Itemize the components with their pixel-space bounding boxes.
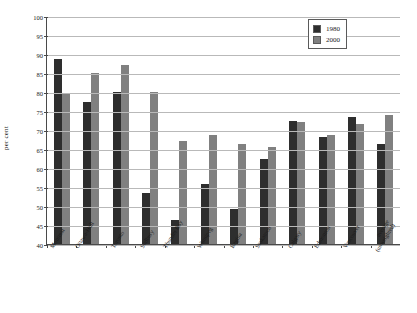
y-tick-mark-55 xyxy=(44,188,48,189)
y-tick-label-90: 90 xyxy=(37,52,44,59)
y-tick-mark-60 xyxy=(44,169,48,170)
gridline-90: 90 xyxy=(47,55,400,56)
y-tick-mark-70 xyxy=(44,131,48,132)
legend-item-2000: 2000 xyxy=(313,34,340,45)
y-tick-label-60: 60 xyxy=(37,166,44,173)
y-tick-label-95: 95 xyxy=(37,33,44,40)
legend-swatch-icon-2000 xyxy=(313,36,321,44)
gridline-50: 50 xyxy=(47,207,400,208)
y-tick-mark-50 xyxy=(44,207,48,208)
legend-swatch-icon-1980 xyxy=(313,25,321,33)
gridline-55: 55 xyxy=(47,188,400,189)
x-label-cell: Saskatoon xyxy=(253,246,283,313)
bar-2000 xyxy=(91,73,99,244)
plot-area: 100959085807570656055504540 xyxy=(46,17,400,245)
y-tick-mark-45 xyxy=(44,226,48,227)
gridline-85: 85 xyxy=(47,74,400,75)
gridline-100: 100 xyxy=(47,17,400,18)
y-tick-label-85: 85 xyxy=(37,71,44,78)
y-tick-mark-100 xyxy=(44,17,48,18)
y-tick-mark-90 xyxy=(44,55,48,56)
y-tick-label-70: 70 xyxy=(37,128,44,135)
gridline-80: 80 xyxy=(47,93,400,94)
y-tick-label-100: 100 xyxy=(33,14,43,21)
gridline-60: 60 xyxy=(47,169,400,170)
bar-2000 xyxy=(238,144,246,244)
bar-1980 xyxy=(113,92,121,244)
y-tick-label-75: 75 xyxy=(37,109,44,116)
bar-1980 xyxy=(54,59,62,244)
bar-chart: per cent 100959085807570656055504540 Mon… xyxy=(0,0,417,313)
legend: 1980 2000 xyxy=(308,19,347,49)
gridline-95: 95 xyxy=(47,36,400,37)
y-tick-label-45: 45 xyxy=(37,223,44,230)
y-tick-label-55: 55 xyxy=(37,185,44,192)
y-tick-label-50: 50 xyxy=(37,204,44,211)
y-tick-label-80: 80 xyxy=(37,90,44,97)
gridline-75: 75 xyxy=(47,112,400,113)
y-tick-mark-85 xyxy=(44,74,48,75)
x-label-cell: Sudbury xyxy=(135,246,165,313)
gridline-45: 45 xyxy=(47,226,400,227)
y-tick-mark-80 xyxy=(44,93,48,94)
y-tick-label-40: 40 xyxy=(37,242,44,249)
gridline-70: 70 xyxy=(47,131,400,132)
x-axis-labels: MontrealOttawa-HullTorontoSudburyThunder… xyxy=(46,246,400,313)
x-label-cell: average (unweighted) xyxy=(371,246,401,313)
y-tick-label-65: 65 xyxy=(37,147,44,154)
x-label-cell: Edmonton xyxy=(312,246,342,313)
x-label-cell: Montreal xyxy=(46,246,76,313)
y-tick-mark-65 xyxy=(44,150,48,151)
y-tick-mark-95 xyxy=(44,36,48,37)
y-tick-mark-75 xyxy=(44,112,48,113)
x-label-cell: Ottawa-Hull xyxy=(76,246,106,313)
legend-label-1980: 1980 xyxy=(326,25,340,33)
x-label-cell: Thunder Bay xyxy=(164,246,194,313)
x-label-cell: Winnipeg xyxy=(194,246,224,313)
x-label-cell: Calgary xyxy=(282,246,312,313)
x-label-cell: Vancouver xyxy=(341,246,371,313)
legend-item-1980: 1980 xyxy=(313,23,340,34)
gridline-65: 65 xyxy=(47,150,400,151)
x-label-cell: Regina xyxy=(223,246,253,313)
bar-2000 xyxy=(150,92,158,244)
legend-label-2000: 2000 xyxy=(326,36,340,44)
x-label-cell: Toronto xyxy=(105,246,135,313)
y-axis-title: per cent xyxy=(2,108,10,168)
